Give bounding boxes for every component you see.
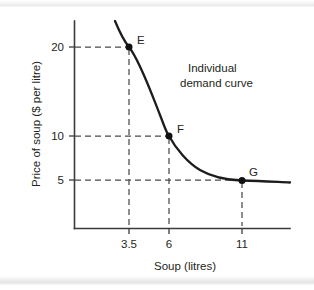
data-point-F <box>166 133 173 140</box>
y-tick-label-10: 10 <box>51 130 64 142</box>
demand-curve-plot: E F G 20 10 5 3.5 6 11 Soup (litres) Pri… <box>0 0 314 290</box>
chart-figure: E F G 20 10 5 3.5 6 11 Soup (litres) Pri… <box>0 0 314 290</box>
x-axis-title: Soup (litres) <box>154 260 216 272</box>
y-tick-label-5: 5 <box>58 174 64 186</box>
point-label-G: G <box>249 166 258 178</box>
x-tick-label-11: 11 <box>236 238 248 250</box>
y-tick-label-20: 20 <box>51 41 64 53</box>
point-label-E: E <box>137 34 145 46</box>
x-tick-label-3.5: 3.5 <box>121 238 137 250</box>
x-tick-label-6: 6 <box>166 238 172 250</box>
curve-annotation-line-2: demand curve <box>180 77 253 89</box>
data-point-E <box>126 44 133 51</box>
data-point-G <box>239 177 246 184</box>
point-label-F: F <box>177 123 184 135</box>
curve-annotation-line-1: Individual <box>188 62 237 74</box>
y-axis-title: Price of soup ($ per litre) <box>30 61 42 187</box>
